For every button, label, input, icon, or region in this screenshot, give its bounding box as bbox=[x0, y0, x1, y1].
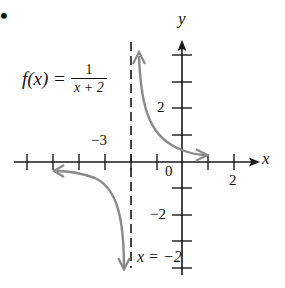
fraction-denominator: x + 2 bbox=[74, 79, 104, 95]
x-axis-label: x bbox=[262, 149, 270, 169]
function-equation: f(x) = 1 x + 2 bbox=[22, 63, 107, 95]
y-axis bbox=[172, 42, 192, 275]
x-tick-label-2: 2 bbox=[229, 172, 237, 189]
graph-canvas bbox=[0, 0, 285, 288]
left-branch-curve bbox=[57, 171, 124, 268]
fraction-numerator: 1 bbox=[85, 63, 92, 78]
y-tick-label-neg2: −2 bbox=[150, 206, 166, 223]
asymptote-label: x = −2 bbox=[137, 248, 182, 266]
y-axis-label: y bbox=[178, 9, 186, 29]
origin-label: 0 bbox=[165, 163, 173, 180]
right-branch-curve bbox=[139, 56, 206, 155]
function-lhs: f(x) = bbox=[22, 68, 66, 90]
function-fraction: 1 x + 2 bbox=[71, 63, 107, 95]
x-axis bbox=[14, 154, 258, 170]
y-tick-label-2: 2 bbox=[157, 99, 165, 116]
bullet-marker: • bbox=[0, 3, 8, 29]
x-tick-label-neg3: −3 bbox=[91, 132, 107, 149]
